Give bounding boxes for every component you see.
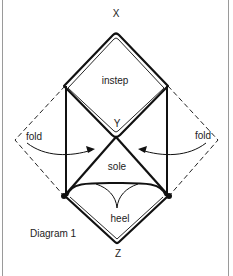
- left-arrowhead-icon: [86, 146, 95, 153]
- region-label-instep: instep: [102, 76, 129, 86]
- fold-label-right: fold: [195, 131, 211, 141]
- vertex-label-x: X: [113, 9, 120, 19]
- heel-cusp: [96, 184, 138, 208]
- right-arrowhead-icon: [138, 146, 147, 153]
- left-corner-dot: [61, 193, 67, 199]
- left-fold-arrow: [27, 143, 92, 155]
- diagram-caption: Diagram 1: [30, 229, 76, 239]
- right-fold-arrow: [141, 143, 206, 155]
- heel-top-curve: [67, 183, 166, 196]
- region-label-heel: heel: [111, 214, 130, 224]
- fold-label-left: fold: [26, 132, 42, 142]
- region-label-sole: sole: [108, 162, 126, 172]
- vertex-label-z: Z: [115, 249, 121, 259]
- right-fold-dashed-line: [168, 86, 218, 196]
- right-corner-dot: [166, 193, 172, 199]
- vertex-label-y: Y: [114, 119, 121, 129]
- diagram-frame: X Y Z instep sole heel fold fold Diagram…: [0, 0, 233, 276]
